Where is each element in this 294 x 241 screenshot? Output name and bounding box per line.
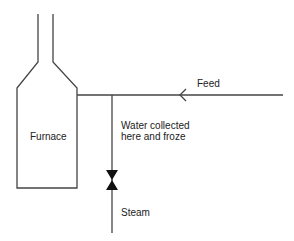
furnace-outline	[17, 14, 77, 188]
water-note-line2: here and froze	[121, 131, 186, 143]
furnace-label: Furnace	[30, 131, 67, 143]
steam-label: Steam	[121, 207, 150, 219]
feed-label: Feed	[197, 78, 220, 90]
valve-icon	[106, 170, 118, 190]
